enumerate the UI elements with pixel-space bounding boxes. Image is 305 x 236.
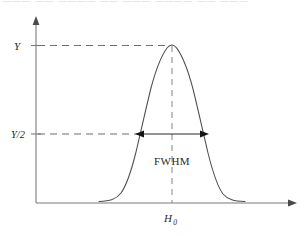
axes-group: [33, 16, 297, 206]
guide-lines-group: [38, 46, 172, 204]
x-center-label: H: [163, 212, 173, 224]
x-center-label-group: H 0: [163, 212, 177, 227]
x-axis-arrow-icon: [288, 200, 297, 207]
fwhm-diagram-svg: Y Y/2 FWHM H 0: [0, 0, 305, 236]
y-axis-max-label: Y: [14, 40, 22, 52]
fwhm-label: FWHM: [154, 155, 190, 167]
y-axis-half-label: Y/2: [11, 129, 26, 140]
figure-container: ——— —— ———— —— ——— ———— —— ———: [0, 0, 305, 236]
x-center-label-subscript: 0: [173, 218, 177, 227]
y-axis-arrow-icon: [33, 16, 40, 25]
